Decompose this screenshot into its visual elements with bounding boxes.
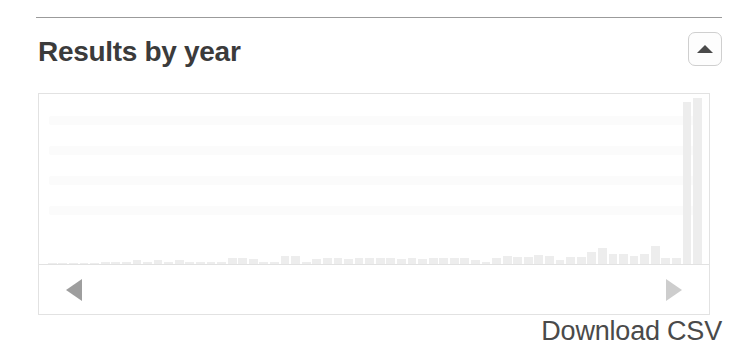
bar — [693, 98, 702, 264]
page-title: Results by year — [38, 36, 241, 68]
pager-prev-button[interactable] — [61, 277, 87, 303]
bar — [281, 256, 290, 264]
results-by-year-chart[interactable] — [39, 94, 709, 264]
bar — [545, 256, 554, 264]
caret-up-icon — [697, 45, 713, 53]
bar — [587, 252, 596, 264]
bar — [513, 257, 522, 264]
bar-series — [47, 98, 703, 264]
bar — [619, 254, 628, 264]
bar — [291, 256, 300, 264]
chart-frame — [38, 93, 710, 315]
caret-right-icon — [666, 279, 682, 301]
bar — [630, 256, 639, 264]
results-by-year-widget: Results by year Download CSV — [0, 0, 744, 348]
pager-next-button[interactable] — [661, 277, 687, 303]
chart-pager — [39, 265, 709, 314]
collapse-panel-button[interactable] — [688, 32, 722, 66]
bar — [577, 257, 586, 264]
bar — [640, 254, 649, 264]
panel-header: Results by year — [36, 32, 722, 82]
bar — [609, 254, 618, 264]
bar — [598, 248, 607, 264]
bar — [566, 257, 575, 264]
bar — [651, 246, 660, 264]
caret-left-icon — [66, 279, 82, 301]
download-csv-link[interactable]: Download CSV — [541, 316, 722, 347]
bar — [524, 257, 533, 264]
bar — [503, 256, 512, 264]
bar — [683, 102, 692, 264]
bar — [534, 255, 543, 264]
header-divider — [36, 17, 722, 18]
